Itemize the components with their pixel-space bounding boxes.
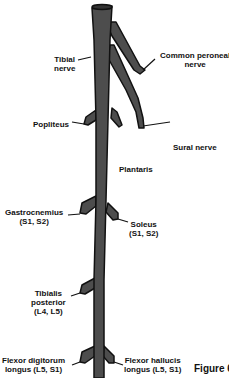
tibialis-posterior-branch: [80, 278, 95, 294]
label-gastrocnemius: Gastrocnemius (S1, S2): [5, 208, 63, 226]
flexor-digitorum-branch: [80, 346, 95, 363]
plantaris-branch: [111, 108, 122, 127]
trunk-top-cut: [92, 5, 112, 10]
label-soleus: Soleus (S1, S2): [129, 220, 158, 238]
figure-label: Figure 6: [194, 363, 229, 374]
soleus-branch: [106, 203, 118, 220]
label-tibialis-posterior: Tibialis posterior (L4, L5): [31, 289, 66, 316]
tibial-nerve-trunk: [92, 6, 112, 378]
label-common-peroneal: Common peroneal nerve: [160, 51, 229, 69]
label-plantaris: Plantaris: [119, 165, 153, 174]
label-popliteus: Popliteus: [33, 120, 69, 129]
popliteus-branch: [84, 110, 96, 125]
label-tibial-nerve: Tibial nerve: [54, 55, 75, 73]
gastrocnemius-branch: [80, 196, 96, 214]
label-flexor-hallucis: Flexor hallucis longus (L5, S1): [124, 356, 181, 374]
label-flexor-digitorum: Flexor digitorum longus (L5, S1): [2, 356, 65, 374]
label-sural-nerve: Sural nerve: [173, 143, 217, 152]
